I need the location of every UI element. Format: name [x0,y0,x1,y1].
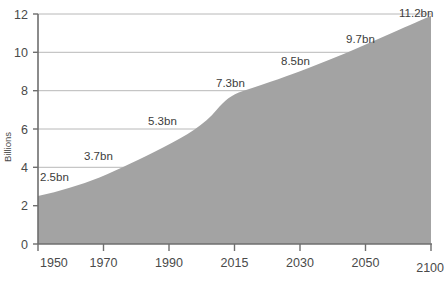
xtick-label-1970: 1970 [90,256,118,270]
data-label-2100: 11.2bn [399,7,433,19]
ytick-label-4: 4 [21,161,28,175]
data-label-1970: 3.7bn [84,150,113,162]
ytick-label-8: 8 [21,84,28,98]
xtick-label-1990: 1990 [155,256,183,270]
xtick-label-2050: 2050 [352,256,380,270]
data-label-2050: 9.7bn [346,33,375,45]
data-label-2015: 7.3bn [216,77,245,89]
ytick-label-0: 0 [21,238,28,252]
xtick-label-2030: 2030 [286,256,314,270]
area-fill [38,16,431,244]
data-label-1950: 2.5bn [40,171,69,183]
ytick-label-10: 10 [14,46,28,60]
data-label-1990: 5.3bn [148,115,177,127]
xtick-label-2015: 2015 [221,256,249,270]
y-axis-title: Billions [2,132,13,162]
xtick-label-1950: 1950 [40,256,68,270]
chart-page: 12 10 8 6 4 2 0 Billions 1950 1970 1990 … [0,0,446,282]
x-axis-ticks [38,244,431,251]
ytick-label-12: 12 [14,8,28,22]
xtick-label-2100: 2100 [416,261,444,275]
ytick-label-2: 2 [21,199,28,213]
population-area-chart: 12 10 8 6 4 2 0 Billions 1950 1970 1990 … [0,0,446,282]
ytick-label-6: 6 [21,123,28,137]
data-label-2030: 8.5bn [281,55,310,67]
